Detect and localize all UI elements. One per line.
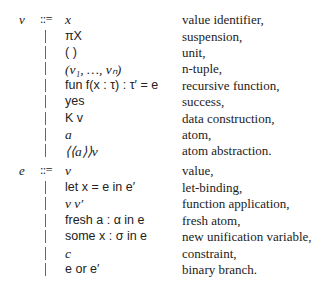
alternative-bar [45,112,46,125]
production: fresh a : α in e [65,213,145,227]
grammar-row-e-5: c constraint, [0,246,322,262]
production: πX [65,29,82,43]
production-description: suspension, [182,29,242,45]
production: v v′ [65,196,83,212]
alternative-bar [45,197,46,210]
production: c [65,246,71,262]
production: fun f(x : τ) : τ′ = e [65,78,158,92]
alternative-bar [45,62,46,75]
grammar-row-e-0: e ::= v value, [0,163,322,179]
production-description: value identifier, [182,12,264,28]
production: yes [65,94,84,108]
alternative-bar [45,128,46,141]
nonterminal-v: v [19,12,25,28]
production-description: function application, [182,196,290,212]
production: x [65,12,71,28]
alternative-bar [45,181,46,194]
production-description: atom abstraction. [182,143,272,159]
production-description: value, [182,163,213,179]
production-description: unit, [182,45,205,61]
grammar-row-e-3: fresh a : α in e fresh atom, [0,213,322,229]
alternative-bar [45,214,46,227]
alternative-bar [45,46,46,59]
production: K v [65,111,83,125]
production: (v₁, …, vₙ) [65,61,121,78]
production-description: recursive function, [182,78,279,94]
grammar-row-v-1: πX suspension, [0,29,322,45]
production: e or e′ [65,262,99,276]
alternative-bar [45,263,46,276]
production: a [65,127,72,143]
defines-operator: ::= [40,12,52,27]
production: v [65,163,71,179]
production: let x = e in e′ [65,180,135,194]
grammar-row-v-4: fun f(x : τ) : τ′ = e recursive function… [0,78,322,94]
alternative-bar [45,230,46,243]
alternative-bar [45,30,46,43]
production-description: fresh atom, [182,213,240,229]
production-description: constraint, [182,246,237,262]
production-description: let-binding, [182,180,242,196]
grammar-row-v-6: K v data construction, [0,111,322,127]
nonterminal-e: e [19,163,25,179]
alternative-bar [45,79,46,92]
production-description: atom, [182,127,211,143]
grammar-row-e-2: v v′ function application, [0,196,322,212]
alternative-bar [45,95,46,108]
production-description: data construction, [182,111,274,127]
grammar-row-v-2: ( ) unit, [0,45,322,61]
grammar-row-e-1: let x = e in e′ let-binding, [0,180,322,196]
alternative-bar [45,247,46,260]
production-description: n-tuple, [182,61,222,77]
production-description: success, [182,94,224,110]
grammar-row-v-8: ⟨⟨a⟩⟩v atom abstraction. [0,143,322,159]
production-description: binary branch. [182,262,257,278]
grammar-row-v-3: (v₁, …, vₙ) n-tuple, [0,61,322,77]
grammar-row-v-5: yes success, [0,94,322,110]
production: ( ) [65,45,77,59]
production: some x : σ in e [65,229,147,243]
alternative-bar [45,144,46,157]
grammar-row-v-7: a atom, [0,127,322,143]
grammar-row-e-4: some x : σ in e new unification variable… [0,229,322,245]
defines-operator: ::= [40,163,52,178]
grammar-row-v-0: v ::= x value identifier, [0,12,322,28]
production: ⟨⟨a⟩⟩v [65,143,98,160]
production-description: new unification variable, [182,229,312,245]
grammar-row-e-6: e or e′ binary branch. [0,262,322,278]
